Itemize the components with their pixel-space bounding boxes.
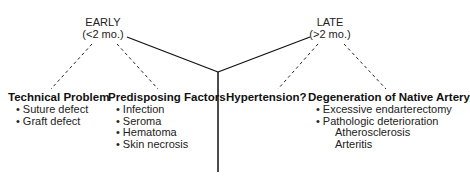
- early-label: EARLY: [73, 16, 133, 28]
- list-item: Infection: [116, 104, 188, 116]
- early-predisposing-dashed-line: [117, 44, 158, 89]
- late-hypertension-dashed-line: [278, 44, 318, 89]
- late-sublabel: (>2 mo.): [300, 28, 360, 40]
- list-item: Graft defect: [16, 116, 88, 128]
- late-to-trunk-line: [218, 37, 310, 72]
- late-degeneration-dashed-line: [344, 44, 386, 89]
- late-label: LATE: [300, 16, 360, 28]
- list-item: Excessive endarterectomy: [316, 104, 452, 116]
- degeneration-list: Excessive endarterectomy Pathologic dete…: [316, 104, 452, 151]
- early-technical-dashed-line: [51, 44, 92, 89]
- hypertension-heading: Hypertension?: [226, 91, 307, 104]
- technical-problem-list: Suture defect Graft defect: [16, 104, 88, 127]
- late-node: LATE (>2 mo.): [300, 16, 360, 40]
- list-item: Skin necrosis: [116, 139, 188, 151]
- early-node: EARLY (<2 mo.): [73, 16, 133, 40]
- list-item: Suture defect: [16, 104, 88, 116]
- early-to-trunk-line: [127, 37, 218, 72]
- sub-list-item: Arteritis: [316, 139, 452, 151]
- predisposing-factors-list: Infection Seroma Hematoma Skin necrosis: [116, 104, 188, 151]
- early-sublabel: (<2 mo.): [73, 28, 133, 40]
